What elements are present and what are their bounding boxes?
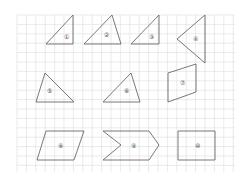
- shape-number-label: ⑩: [195, 143, 200, 149]
- shape-7-quadrilateral: ⑦: [168, 64, 196, 102]
- shape-3-right-triangle: ③: [131, 15, 159, 44]
- shape-number-label: ⑤: [47, 88, 52, 94]
- shape-number-label: ③: [149, 34, 154, 40]
- shape-number-label: ①: [64, 34, 69, 40]
- shape-number-label: ⑨: [131, 143, 136, 149]
- right-triangle-outline: [46, 15, 73, 44]
- triangle-outline: [84, 15, 121, 44]
- triangle-outline: [177, 15, 205, 63]
- shape-number-label: ⑧: [58, 143, 63, 149]
- shape-5-triangle: ⑤: [36, 73, 74, 102]
- shape-6-triangle: ⑥: [103, 73, 140, 102]
- shape-4-triangle: ④: [177, 15, 205, 63]
- shape-2-triangle: ②: [84, 15, 121, 44]
- shape-number-label: ⑦: [180, 80, 185, 86]
- right-triangle-outline: [131, 15, 159, 44]
- shape-10-rectangle: ⑩: [178, 131, 215, 160]
- triangle-outline: [36, 73, 74, 102]
- shape-number-label: ⑥: [124, 88, 129, 94]
- shape-8-parallelogram: ⑧: [37, 131, 84, 160]
- triangle-outline: [103, 73, 140, 102]
- shape-1-right-triangle: ①: [46, 15, 73, 44]
- shape-number-label: ②: [104, 32, 109, 38]
- shape-number-label: ④: [193, 36, 198, 42]
- shapes-diagram: ①②③④⑤⑥⑦⑧⑨⑩: [0, 0, 248, 182]
- shape-9-chevron: ⑨: [103, 131, 159, 160]
- shapes-group: ①②③④⑤⑥⑦⑧⑨⑩: [36, 15, 215, 160]
